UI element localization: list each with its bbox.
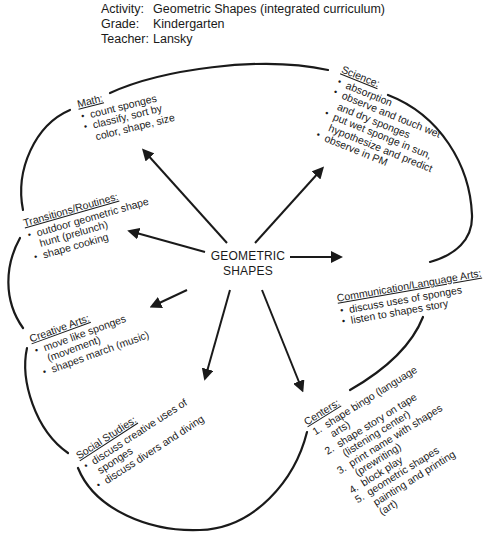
arrow-to-transitions [133, 232, 205, 252]
activity-header: Activity: Geometric Shapes (integrated c… [101, 2, 385, 47]
grade-label: Grade: [101, 17, 153, 32]
teacher-value: Lansky [153, 32, 193, 47]
activity-label: Activity: [101, 2, 153, 17]
arrow-to-creative-arts [155, 290, 187, 305]
teacher-label: Teacher: [101, 32, 153, 47]
grade-value: Kindergarten [153, 17, 225, 32]
center-line-2: SHAPES [210, 264, 286, 279]
grade-row: Grade: Kindergarten [101, 17, 385, 32]
activity-value: Geometric Shapes (integrated curriculum) [153, 2, 385, 17]
arrow-to-science [255, 171, 320, 243]
teacher-row: Teacher: Lansky [101, 32, 385, 47]
arrow-to-centers [262, 290, 301, 387]
curve-transitions-to-math [21, 110, 70, 210]
curve-transitions-to-creative [8, 238, 23, 328]
center-node: GEOMETRIC SHAPES [210, 249, 286, 279]
center-line-1: GEOMETRIC [210, 249, 286, 264]
arrow-to-math [146, 153, 227, 243]
arrow-to-social-studies [206, 290, 230, 375]
activity-row: Activity: Geometric Shapes (integrated c… [101, 2, 385, 17]
